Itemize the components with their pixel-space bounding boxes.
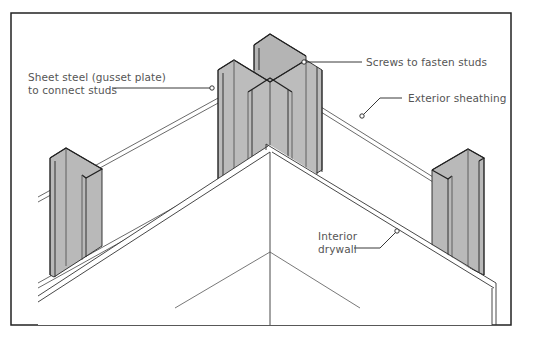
figure-diagram: Sheet steel (gusset plate) to connect st…	[0, 0, 536, 340]
label-drywall-line1: Interior	[318, 230, 357, 243]
label-gusset-line2: to connect studs	[28, 84, 166, 97]
label-interior-drywall: Interior drywall	[318, 230, 357, 256]
label-gusset-line1: Sheet steel (gusset plate)	[28, 71, 166, 84]
label-exterior-sheathing: Exterior sheathing	[408, 92, 507, 105]
label-gusset-plate: Sheet steel (gusset plate) to connect st…	[28, 71, 166, 97]
label-screws: Screws to fasten studs	[366, 56, 487, 69]
framing-illustration	[0, 0, 536, 340]
label-drywall-line2: drywall	[318, 243, 357, 256]
